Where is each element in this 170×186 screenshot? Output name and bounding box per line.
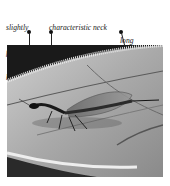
label-line: slightly (6, 24, 28, 32)
label-line: long (120, 37, 159, 45)
label-line: characteristic neck (49, 24, 107, 32)
photo-illustration (7, 45, 163, 177)
snakefly-photo (7, 45, 163, 177)
